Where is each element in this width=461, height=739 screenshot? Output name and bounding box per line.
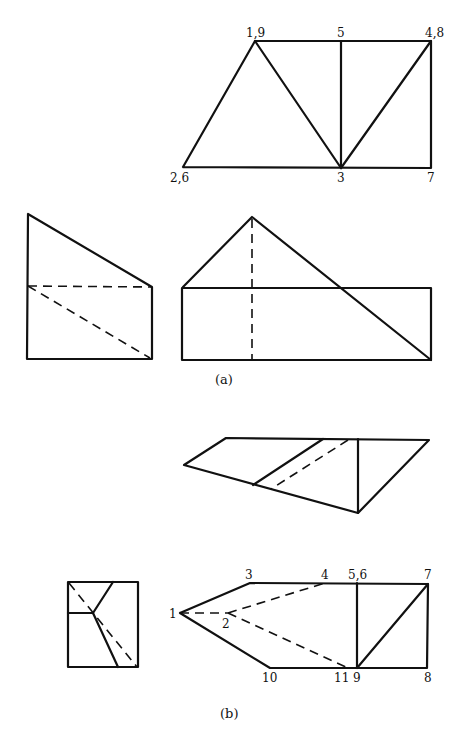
front-view-rect [182, 288, 431, 360]
figure-a-side-view [27, 214, 152, 359]
figure-a-front-view: (a) [182, 217, 431, 387]
edge-1-3 [255, 41, 341, 168]
label-2: 2 [222, 617, 230, 631]
label-3: 3 [337, 171, 345, 185]
edge-4-3 [341, 41, 431, 168]
label-7: 7 [424, 568, 432, 582]
hidden-edge-diagonal [28, 286, 150, 358]
label-5: 5 [337, 26, 345, 40]
edge-diagonal [253, 439, 323, 485]
label-8: 8 [424, 671, 432, 685]
label-10: 10 [262, 671, 277, 685]
figure-a-top-view: 1,9 5 4,8 2,6 3 7 [170, 26, 444, 185]
label-7: 7 [427, 171, 435, 185]
label-4: 4 [321, 568, 329, 582]
label-5-6: 5,6 [348, 568, 367, 582]
label-2-6: 2,6 [170, 171, 189, 185]
caption-b: (b) [220, 706, 238, 721]
figure-b-top-view [184, 438, 429, 513]
label-4-8: 4,8 [425, 26, 444, 40]
hidden-edge-2-4 [228, 583, 325, 613]
label-11: 11 [334, 671, 349, 685]
figure-b-front-view: 1 2 3 4 5,6 7 8 9 10 11 (b) [169, 568, 432, 721]
label-9: 9 [353, 671, 361, 685]
edge-7-9 [357, 584, 428, 668]
hidden-edge-horizontal [28, 286, 152, 287]
caption-a: (a) [215, 372, 233, 387]
label-1: 1 [169, 607, 177, 621]
orthographic-drawings: 1,9 5 4,8 2,6 3 7 (a) 1 [0, 0, 461, 739]
label-3: 3 [245, 568, 253, 582]
figure-b-side-view [68, 582, 138, 667]
label-1-9: 1,9 [246, 26, 265, 40]
edge-upper [93, 582, 113, 613]
front-view-outline [180, 583, 428, 668]
hidden-edge-2-11 [228, 613, 348, 668]
top-view-outline [183, 41, 431, 168]
edge-lower [93, 613, 118, 667]
